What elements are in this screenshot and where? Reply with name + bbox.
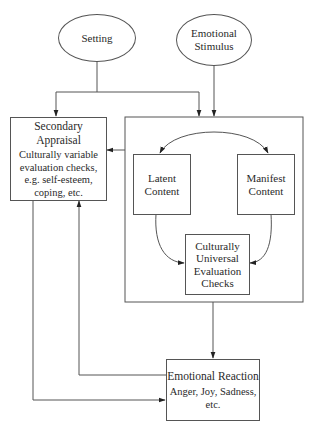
emotional-stimulus-node: Emotional Stimulus <box>176 14 252 66</box>
edge-setting-split <box>56 62 199 92</box>
emotional-reaction-node: Emotional Reaction Anger, Joy, Sadness, … <box>166 359 260 421</box>
secondary-appraisal-desc-1: Culturally variable <box>19 149 98 162</box>
universal-label-line3: Evaluation <box>194 265 242 278</box>
secondary-appraisal-title: Secondary Appraisal <box>11 119 106 147</box>
edge-reaction-to-secondary <box>79 201 166 375</box>
edge-manifest-to-universal <box>250 214 271 263</box>
secondary-appraisal-node: Secondary Appraisal Culturally variable … <box>10 117 107 201</box>
emotional-reaction-desc-1: Anger, Joy, Sadness, <box>170 386 257 399</box>
manifest-label-line2: Content <box>249 185 284 198</box>
universal-checks-node: Culturally Universal Evaluation Checks <box>185 234 250 295</box>
secondary-appraisal-desc-2: evaluation checks, <box>20 162 98 175</box>
universal-label-line2: Universal <box>196 252 239 265</box>
latent-content-node: Latent Content <box>133 154 191 215</box>
stimulus-label-line2: Stimulus <box>194 40 233 53</box>
stimulus-label-line1: Emotional <box>191 27 237 40</box>
setting-label: Setting <box>81 32 112 45</box>
latent-label-line1: Latent <box>148 172 176 185</box>
universal-label-line4: Checks <box>201 277 233 290</box>
setting-node: Setting <box>58 14 136 62</box>
secondary-appraisal-desc-3: e.g. self-esteem, <box>24 174 92 187</box>
emotional-reaction-title: Emotional Reaction <box>167 369 259 383</box>
universal-label-line1: Culturally <box>195 240 240 253</box>
emotional-reaction-desc-2: etc. <box>206 399 221 412</box>
edge-latent-manifest <box>160 132 268 153</box>
manifest-label-line1: Manifest <box>246 172 285 185</box>
manifest-content-node: Manifest Content <box>237 154 295 215</box>
latent-label-line2: Content <box>145 185 180 198</box>
edge-secondary-to-reaction <box>33 200 165 400</box>
edge-latent-to-universal <box>156 214 184 263</box>
secondary-appraisal-desc-4: coping, etc. <box>34 187 83 200</box>
